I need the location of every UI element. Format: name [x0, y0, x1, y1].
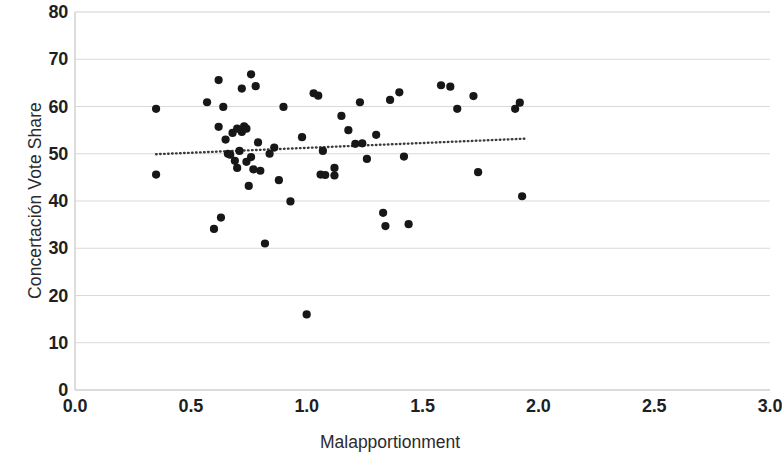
- data-point: [235, 147, 243, 155]
- data-point: [203, 98, 211, 106]
- data-point: [453, 105, 461, 113]
- data-point: [446, 83, 454, 91]
- data-point: [152, 170, 160, 178]
- data-point: [405, 220, 413, 228]
- data-point: [270, 144, 278, 152]
- data-point: [474, 168, 482, 176]
- data-points: [152, 70, 526, 318]
- x-axis-tick-label: 3.0: [758, 396, 782, 417]
- data-point: [215, 123, 223, 131]
- data-point: [217, 213, 225, 221]
- data-point: [319, 147, 327, 155]
- data-point: [252, 82, 260, 90]
- data-point: [330, 171, 338, 179]
- data-point: [386, 96, 394, 104]
- data-point: [358, 139, 366, 147]
- data-point: [261, 239, 269, 247]
- data-point: [219, 103, 227, 111]
- trendline: [156, 139, 527, 155]
- data-point: [254, 138, 262, 146]
- x-axis-tick-label: 1.0: [294, 396, 318, 417]
- x-axis-tick-label: 0.0: [63, 396, 87, 417]
- data-point: [238, 84, 246, 92]
- data-point: [379, 209, 387, 217]
- data-point: [344, 126, 352, 134]
- x-axis-tick-label: 0.5: [179, 396, 203, 417]
- data-point: [298, 133, 306, 141]
- data-point: [215, 76, 223, 84]
- data-point: [152, 105, 160, 113]
- data-point: [221, 135, 229, 143]
- data-point: [231, 157, 239, 165]
- data-point: [381, 222, 389, 230]
- data-point: [337, 112, 345, 120]
- gridlines: [75, 12, 770, 343]
- data-point: [245, 182, 253, 190]
- data-point: [469, 92, 477, 100]
- data-point: [247, 70, 255, 78]
- data-point: [249, 165, 257, 173]
- data-point: [395, 88, 403, 96]
- data-point: [356, 98, 364, 106]
- data-point: [233, 164, 241, 172]
- data-point: [516, 99, 524, 107]
- data-point: [437, 81, 445, 89]
- trendline-path: [156, 139, 527, 155]
- data-point: [330, 164, 338, 172]
- data-point: [351, 140, 359, 148]
- data-point: [400, 152, 408, 160]
- data-point: [303, 310, 311, 318]
- data-point: [247, 153, 255, 161]
- data-point: [314, 92, 322, 100]
- data-point: [372, 131, 380, 139]
- data-point: [279, 103, 287, 111]
- data-point: [286, 197, 294, 205]
- data-point: [210, 225, 218, 233]
- x-axis-tick-label: 2.5: [642, 396, 666, 417]
- x-axis-tick-label: 2.0: [526, 396, 550, 417]
- data-point: [242, 125, 250, 133]
- x-axis-tick-label: 1.5: [410, 396, 434, 417]
- data-point: [256, 167, 264, 175]
- data-point: [363, 155, 371, 163]
- data-point: [275, 176, 283, 184]
- data-point: [518, 192, 526, 200]
- data-point: [321, 171, 329, 179]
